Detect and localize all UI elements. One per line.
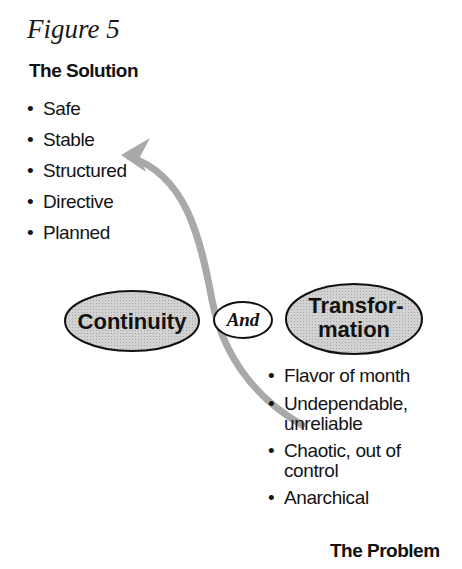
transformation-label-line2: mation [318, 317, 390, 342]
transformation-ellipse: Transfor- mation [286, 284, 422, 354]
problem-item: Undependable,unreliable [268, 394, 410, 434]
and-ellipse: And [214, 302, 272, 338]
problem-item: Chaotic, out ofcontrol [268, 441, 410, 481]
problem-item: Anarchical [268, 488, 410, 508]
problem-heading: The Problem [330, 540, 440, 562]
transformation-label-line1: Transfor- [308, 293, 403, 318]
continuity-label: Continuity [78, 309, 188, 334]
problem-item: Flavor of month [268, 366, 410, 386]
and-label: And [226, 309, 260, 330]
problem-list: Flavor of month Undependable,unreliable … [268, 366, 410, 515]
continuity-ellipse: Continuity [65, 291, 199, 351]
